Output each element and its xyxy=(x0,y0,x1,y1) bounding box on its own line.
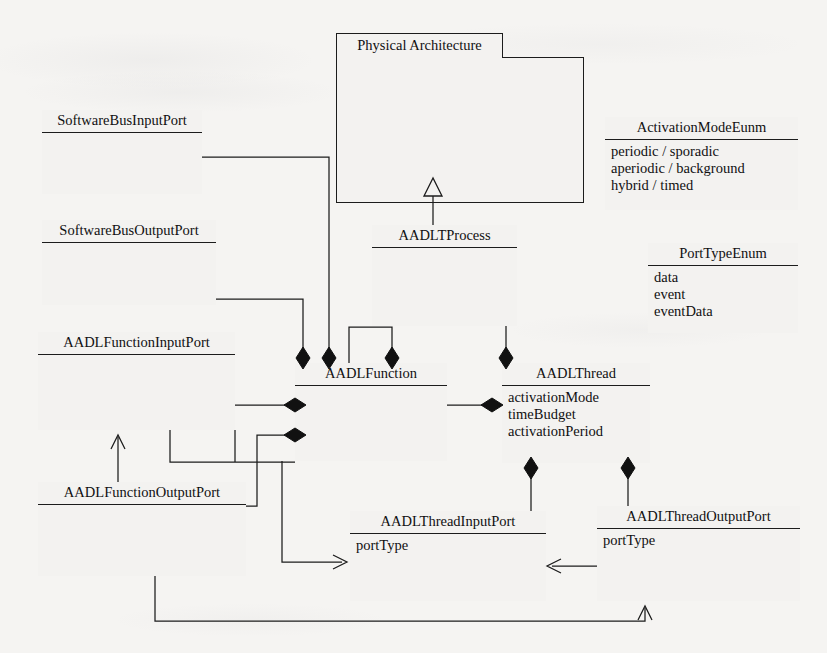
class-name-aadl-thread: AADLThread xyxy=(502,363,650,386)
enum-literal: hybrid / timed xyxy=(611,177,798,194)
composition-aadl-thread-output-port-to-aadl-thread xyxy=(621,457,635,506)
class-name-aadl-function: AADLFunction xyxy=(295,363,447,386)
enum-port-type[interactable]: PortTypeEnum data event eventData xyxy=(648,243,798,333)
enum-literals-activation-mode: periodic / sporadic aperiodic / backgrou… xyxy=(605,140,798,194)
package-tab-physical-architecture: Physical Architecture xyxy=(336,33,503,58)
class-aadl-thread-output-port[interactable]: AADLThreadOutputPort portType xyxy=(597,506,800,601)
enum-name-activation-mode: ActivationModeEunm xyxy=(605,117,798,140)
class-aadl-function-input-port[interactable]: AADLFunctionInputPort xyxy=(38,332,235,430)
class-name-software-bus-output-port: SoftwareBusOutputPort xyxy=(42,220,216,243)
composition-aadl-thread-to-aadl-function xyxy=(447,398,503,412)
class-attribute: activationPeriod xyxy=(508,423,650,440)
enum-literal: aperiodic / background xyxy=(611,160,798,177)
class-attributes-aadl-function xyxy=(295,386,447,389)
association-aadl-function-output-port-to-aadl-function-input-port xyxy=(111,435,125,482)
enum-literal: data xyxy=(654,269,798,286)
class-name-aadlt-process: AADLTProcess xyxy=(372,225,517,248)
class-attributes-aadl-function-output-port xyxy=(38,505,246,508)
enum-activation-mode[interactable]: ActivationModeEunm periodic / sporadic a… xyxy=(605,117,798,210)
class-name-software-bus-input-port: SoftwareBusInputPort xyxy=(42,110,202,133)
enum-literal: periodic / sporadic xyxy=(611,143,798,160)
class-attributes-software-bus-input-port xyxy=(42,133,202,136)
class-attribute: portType xyxy=(603,532,800,549)
class-attributes-aadl-thread-output-port: portType xyxy=(597,529,800,549)
composition-aadl-thread-input-port-to-aadl-thread xyxy=(524,457,538,511)
class-aadl-thread-input-port[interactable]: AADLThreadInputPort portType xyxy=(350,511,546,601)
class-attributes-aadl-function-input-port xyxy=(38,355,235,358)
enum-name-port-type: PortTypeEnum xyxy=(648,243,798,266)
class-software-bus-output-port[interactable]: SoftwareBusOutputPort xyxy=(42,220,216,305)
class-attribute: portType xyxy=(356,537,546,554)
uml-diagram-canvas: Physical Architecture PhyscialComponent … xyxy=(0,0,827,653)
class-attributes-aadl-thread-input-port: portType xyxy=(350,534,546,554)
class-name-aadl-thread-output-port: AADLThreadOutputPort xyxy=(597,506,800,529)
class-attributes-software-bus-output-port xyxy=(42,243,216,246)
enum-literal: eventData xyxy=(654,303,798,320)
class-aadl-thread[interactable]: AADLThread activationMode timeBudget act… xyxy=(502,363,650,463)
class-name-aadl-thread-input-port: AADLThreadInputPort xyxy=(350,511,546,534)
association-aadl-thread-output-port-to-aadl-thread-input-port xyxy=(547,559,597,573)
class-software-bus-input-port[interactable]: SoftwareBusInputPort xyxy=(42,110,202,194)
class-aadlt-process[interactable]: AADLTProcess xyxy=(372,225,517,326)
package-body-physical-architecture xyxy=(336,57,584,203)
class-aadl-function-output-port[interactable]: AADLFunctionOutputPort xyxy=(38,482,246,576)
enum-literal: event xyxy=(654,286,798,303)
class-aadl-function[interactable]: AADLFunction xyxy=(295,363,447,461)
package-name-label: Physical Architecture xyxy=(357,37,481,53)
class-attributes-aadl-thread: activationMode timeBudget activationPeri… xyxy=(502,386,650,440)
enum-literals-port-type: data event eventData xyxy=(648,266,798,320)
class-attribute: activationMode xyxy=(508,389,650,406)
class-attribute: timeBudget xyxy=(508,406,650,423)
class-name-aadl-function-output-port: AADLFunctionOutputPort xyxy=(38,482,246,505)
class-name-aadl-function-input-port: AADLFunctionInputPort xyxy=(38,332,235,355)
class-attributes-aadlt-process xyxy=(372,248,517,251)
